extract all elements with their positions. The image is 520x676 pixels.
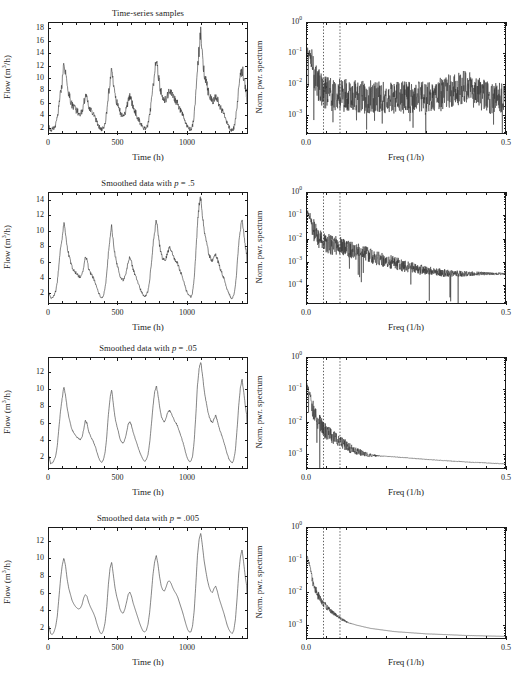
- ps-row4-xtick-mark: [306, 636, 307, 640]
- ps-row4-ytick-minor-right: [504, 606, 506, 607]
- ps-row1-trace: [307, 48, 505, 133]
- ps-row2-ytick-label: 10−3: [272, 258, 302, 266]
- ps-row1-ytick-minor: [306, 128, 308, 129]
- ps-row2-ytick-minor-right: [504, 222, 506, 223]
- ps-row1-ytick-minor-right: [504, 120, 506, 121]
- ps-row3-ytick-minor: [306, 458, 308, 459]
- ps-row1-ytick-minor-right: [504, 75, 506, 76]
- ps-row2-ytick-minor: [306, 216, 308, 217]
- ps-row3-xtick-mark-top: [406, 357, 407, 360]
- ps-row4-xtick-mark-top: [386, 527, 387, 530]
- ps-row2-ytick-minor-right: [504, 199, 506, 200]
- ps-row2-ytick-minor: [306, 298, 308, 299]
- ps-row2-ytick-minor: [306, 295, 308, 296]
- ps-row4-xtick-mark-top: [406, 527, 407, 530]
- ps-row3-xtick-mark: [306, 466, 307, 470]
- ps-row3-xtick-mark-top: [426, 357, 427, 360]
- ps-row1-panel: 10010−110−210−30.00.5Freq (1/h)Norm. pwr…: [0, 8, 520, 168]
- ps-row4-axes: [306, 527, 506, 639]
- ps-row4-ytick-minor: [306, 583, 308, 584]
- ps-row1-xaxis-label: Freq (1/h): [306, 152, 506, 162]
- ps-row4-xtick-mark: [386, 636, 387, 639]
- ps-row2-ytick-minor-right: [504, 232, 506, 233]
- ps-row1-ytick-minor: [306, 44, 308, 45]
- ps-row1-ytick-minor: [306, 60, 308, 61]
- ps-row1-ytick-minor-right: [504, 31, 506, 32]
- ps-row1-ytick-minor: [306, 125, 308, 126]
- ps-row4-ytick-minor-right: [504, 540, 506, 541]
- ps-row3-xtick-mark-top: [366, 357, 367, 360]
- ps-row2-ytick-minor: [306, 241, 308, 242]
- ps-row1-ytick-minor-right: [504, 55, 506, 56]
- ps-row4-ytick-minor: [306, 627, 308, 628]
- ps-row4-ytick-minor: [306, 563, 308, 564]
- ps-row3-ytick-minor: [306, 435, 308, 436]
- ps-row4-ytick-minor-right: [504, 596, 506, 597]
- ps-row2-ytick-minor: [306, 263, 308, 264]
- ps-row3-panel: 10010−110−210−30.00.5Freq (1/h)Norm. pwr…: [0, 343, 520, 503]
- ps-row1-ytick-minor-right: [504, 38, 506, 39]
- ps-row4-xtick-mark-top: [446, 527, 447, 530]
- ps-row4-ytick-minor: [306, 615, 308, 616]
- ps-row3-xtick-mark: [326, 466, 327, 469]
- ps-row3-xtick-mark-top: [326, 357, 327, 360]
- ps-row2-xtick-mark: [346, 301, 347, 304]
- ps-row3-ytick-minor: [306, 429, 308, 430]
- ps-row4-ytick-minor-right: [504, 615, 506, 616]
- ps-row4-ytick-minor-right: [504, 633, 506, 634]
- ps-row3-ytick-minor: [306, 394, 308, 395]
- ps-row3-xtick-mark: [506, 466, 507, 470]
- ps-row2-xtick-mark-top: [466, 192, 467, 195]
- ps-row2-panel: 10010−110−210−310−40.00.5Freq (1/h)Norm.…: [0, 178, 520, 338]
- ps-row4-xtick-mark: [346, 636, 347, 639]
- ps-row4-ytick-minor: [306, 540, 308, 541]
- ps-row3-ytick-minor: [306, 393, 308, 394]
- ps-row2-ytick-minor-right: [504, 246, 506, 247]
- ps-row4-ytick-minor: [306, 628, 308, 629]
- ps-row3-ytick-minor-right: [504, 406, 506, 407]
- ps-row2-ytick-minor-right: [504, 266, 506, 267]
- ps-row3-xtick-mark: [406, 466, 407, 469]
- ps-row1-ytick-minor: [306, 122, 308, 123]
- ps-row3-xtick-mark-top: [506, 357, 507, 361]
- ps-row2-ytick-label: 100: [272, 188, 302, 196]
- ps-row3-xtick-label: 0.5: [501, 474, 511, 482]
- ps-row3-ytick-minor: [306, 374, 308, 375]
- ps-row3-ytick-label: 10−1: [272, 385, 302, 393]
- ps-row1-xtick-mark-top: [306, 22, 307, 26]
- ps-row4-xtick-mark-top: [306, 527, 307, 531]
- ps-row2-ytick-minor-right: [504, 219, 506, 220]
- ps-row4-ytick-minor-right: [504, 573, 506, 574]
- ps-row4-xtick-mark: [426, 636, 427, 639]
- ps-row1-ytick-minor: [306, 58, 308, 59]
- ps-row2-ytick-minor-right: [504, 288, 506, 289]
- ps-row1-ytick-minor-right: [504, 117, 506, 118]
- ps-row1-ytick-minor: [306, 94, 308, 95]
- ps-row4-xtick-mark: [326, 636, 327, 639]
- ps-row2-xtick-mark: [366, 301, 367, 304]
- ps-row4-ytick-minor-right: [504, 600, 506, 601]
- ps-row2-xtick-mark: [386, 301, 387, 304]
- ps-row2-ytick-minor: [306, 251, 308, 252]
- ps-row2-ytick-minor: [306, 271, 308, 272]
- ps-row3-ytick-minor: [306, 459, 308, 460]
- ps-row1-xtick-mark-top: [426, 22, 427, 25]
- ps-row1-ytick-minor: [306, 117, 308, 118]
- ps-row2-ytick-minor-right: [504, 271, 506, 272]
- ps-row3-ytick-minor: [306, 432, 308, 433]
- ps-row1-xtick-mark-top: [466, 22, 467, 25]
- ps-row2-ytick-minor-right: [504, 201, 506, 202]
- ps-row4-ytick-minor-right: [504, 563, 506, 564]
- ps-row1-ytick-minor: [306, 27, 308, 28]
- ps-row1-ytick-minor-right: [504, 91, 506, 92]
- ps-row2-ytick-minor-right: [504, 208, 506, 209]
- ps-row4-xtick-mark-top: [426, 527, 427, 530]
- ps-row2-ytick-minor-right: [504, 248, 506, 249]
- ps-row4-ytick-minor: [306, 567, 308, 568]
- ps-row3-ytick-minor-right: [504, 462, 506, 463]
- ps-row3-yaxis-label: Norm. pwr. spectrum: [254, 343, 264, 481]
- ps-row2-ytick-minor: [306, 201, 308, 202]
- ps-row2-ytick-minor: [306, 244, 308, 245]
- ps-row2-ytick-minor: [306, 278, 308, 279]
- ps-row3-ytick-minor: [306, 362, 308, 363]
